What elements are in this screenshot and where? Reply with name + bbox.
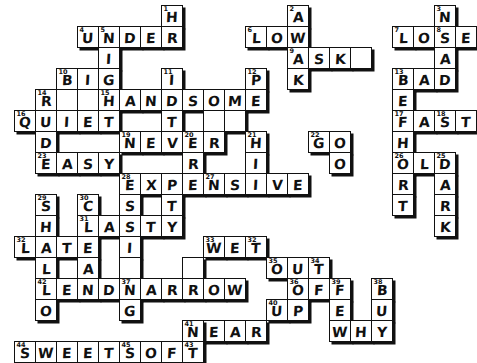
crossword-cell[interactable]: 17F — [392, 110, 414, 132]
crossword-cell[interactable]: 6L — [245, 26, 267, 48]
crossword-cell[interactable]: A — [224, 320, 246, 342]
crossword-cell[interactable]: 8S — [434, 26, 456, 48]
crossword-cell[interactable]: R — [182, 152, 204, 174]
crossword-cell[interactable]: U — [287, 257, 309, 279]
crossword-cell[interactable]: F — [308, 278, 330, 300]
crossword-cell[interactable]: O — [35, 299, 57, 321]
crossword-cell[interactable]: K — [287, 68, 309, 90]
crossword-cell[interactable]: 18S — [434, 110, 456, 132]
crossword-cell[interactable]: O — [203, 89, 225, 111]
crossword-cell[interactable]: T — [140, 215, 162, 237]
crossword-cell[interactable]: 3N — [434, 5, 456, 27]
crossword-cell[interactable]: E — [203, 320, 225, 342]
crossword-cell[interactable]: D — [98, 278, 120, 300]
crossword-cell[interactable]: 33W — [203, 236, 225, 258]
crossword-cell[interactable]: O — [140, 341, 162, 363]
crossword-cell[interactable]: S — [119, 215, 141, 237]
crossword-cell[interactable] — [119, 257, 141, 279]
crossword-cell[interactable]: A — [413, 68, 435, 90]
crossword-cell[interactable]: I — [98, 47, 120, 69]
crossword-cell[interactable]: S — [224, 173, 246, 195]
crossword-cell[interactable]: E — [140, 131, 162, 153]
crossword-cell[interactable]: H — [350, 320, 372, 342]
crossword-cell[interactable]: R — [161, 278, 183, 300]
crossword-cell[interactable]: 9A — [287, 47, 309, 69]
crossword-cell[interactable]: T — [56, 236, 78, 258]
crossword-cell[interactable]: 20E — [182, 131, 204, 153]
crossword-cell[interactable]: A — [35, 236, 57, 258]
crossword-cell[interactable]: O — [413, 26, 435, 48]
crossword-cell[interactable]: O — [203, 278, 225, 300]
crossword-cell[interactable]: Y — [371, 320, 393, 342]
crossword-cell[interactable] — [224, 110, 246, 132]
crossword-cell[interactable]: E — [56, 278, 78, 300]
crossword-cell[interactable]: T — [455, 110, 477, 132]
crossword-cell[interactable]: 19N — [119, 131, 141, 153]
crossword-cell[interactable]: E — [77, 236, 99, 258]
crossword-cell[interactable]: 36O — [287, 278, 309, 300]
crossword-cell[interactable] — [350, 47, 372, 69]
crossword-cell[interactable]: Y — [98, 152, 120, 174]
crossword-cell[interactable]: R — [203, 131, 225, 153]
crossword-cell[interactable]: P — [287, 299, 309, 321]
crossword-cell[interactable]: 32T — [245, 236, 267, 258]
crossword-cell[interactable]: E — [245, 89, 267, 111]
crossword-cell[interactable]: 35O — [266, 257, 288, 279]
crossword-cell[interactable]: E — [77, 110, 99, 132]
crossword-cell[interactable]: E — [182, 173, 204, 195]
crossword-cell[interactable]: V — [266, 173, 288, 195]
crossword-cell[interactable]: X — [140, 173, 162, 195]
crossword-cell[interactable]: 37N — [119, 278, 141, 300]
crossword-cell[interactable]: 26O — [392, 152, 414, 174]
crossword-cell[interactable]: P — [161, 173, 183, 195]
crossword-cell[interactable]: O — [329, 131, 351, 153]
crossword-cell[interactable]: 38B — [371, 278, 393, 300]
crossword-cell[interactable]: S — [308, 47, 330, 69]
crossword-cell[interactable] — [56, 89, 78, 111]
crossword-cell[interactable]: I — [245, 173, 267, 195]
crossword-cell[interactable]: E — [287, 173, 309, 195]
crossword-cell[interactable]: A — [434, 173, 456, 195]
crossword-cell[interactable]: 32L — [14, 236, 36, 258]
crossword-cell[interactable]: L — [413, 152, 435, 174]
crossword-cell[interactable]: 44S — [14, 341, 36, 363]
crossword-cell[interactable]: A — [77, 257, 99, 279]
crossword-cell[interactable]: 30C — [77, 194, 99, 216]
crossword-cell[interactable]: 27N — [203, 173, 225, 195]
crossword-cell[interactable] — [182, 257, 204, 279]
crossword-cell[interactable]: L — [35, 257, 57, 279]
crossword-cell[interactable]: 14R — [35, 89, 57, 111]
crossword-cell[interactable]: A — [413, 110, 435, 132]
crossword-cell[interactable]: R — [182, 278, 204, 300]
crossword-cell[interactable]: E — [455, 26, 477, 48]
crossword-cell[interactable]: U — [371, 299, 393, 321]
crossword-cell[interactable]: H — [35, 215, 57, 237]
crossword-cell[interactable]: D — [35, 131, 57, 153]
crossword-cell[interactable]: D — [434, 68, 456, 90]
crossword-cell[interactable]: T — [161, 194, 183, 216]
crossword-cell[interactable]: O — [266, 26, 288, 48]
crossword-cell[interactable]: 1H — [161, 5, 183, 27]
crossword-cell[interactable]: T — [392, 194, 414, 216]
crossword-cell[interactable]: E — [392, 89, 414, 111]
crossword-cell[interactable]: W — [35, 341, 57, 363]
crossword-cell[interactable]: O — [329, 152, 351, 174]
crossword-cell[interactable]: I — [119, 236, 141, 258]
crossword-cell[interactable]: 2A — [287, 5, 309, 27]
crossword-cell[interactable]: A — [140, 278, 162, 300]
crossword-cell[interactable]: 40U — [266, 299, 288, 321]
crossword-cell[interactable]: G — [98, 68, 120, 90]
crossword-cell[interactable]: 31L — [77, 215, 99, 237]
crossword-cell[interactable]: Y — [161, 215, 183, 237]
crossword-cell[interactable]: W — [329, 320, 351, 342]
crossword-cell[interactable]: H — [392, 131, 414, 153]
crossword-cell[interactable]: K — [329, 47, 351, 69]
crossword-cell[interactable]: F — [161, 341, 183, 363]
crossword-cell[interactable]: U — [35, 110, 57, 132]
crossword-cell[interactable]: S — [119, 194, 141, 216]
crossword-cell[interactable]: 16Q — [14, 110, 36, 132]
crossword-cell[interactable]: R — [245, 320, 267, 342]
crossword-cell[interactable]: R — [392, 173, 414, 195]
crossword-cell[interactable]: E — [224, 236, 246, 258]
crossword-cell[interactable]: N — [77, 278, 99, 300]
